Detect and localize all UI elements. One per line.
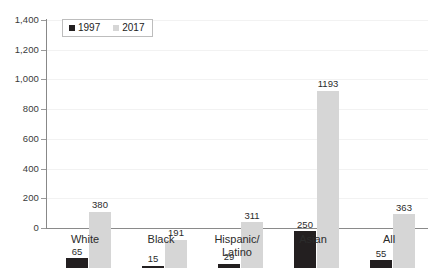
legend-label-1997: 1997 (78, 22, 100, 33)
y-tick-mark (41, 20, 46, 21)
y-tick-mark (41, 169, 46, 170)
bar-chart: 1,400 1,200 1,000 800 600 400 200 0 65 3… (0, 0, 433, 268)
y-tick-label: 600 (1, 134, 39, 144)
bar-label-white-2017: 380 (85, 199, 115, 210)
legend-swatch-icon-2017 (113, 25, 119, 31)
category-label-black: Black (123, 233, 199, 246)
y-tick-label: 200 (1, 193, 39, 203)
bar-label-all-2017: 363 (389, 202, 419, 213)
bar-white-1997[interactable] (66, 258, 88, 268)
y-tick-label: 1,400 (1, 15, 39, 25)
y-tick-label: 800 (1, 104, 39, 114)
chart-legend: 1997 2017 (62, 19, 153, 37)
bar-label-black-1997: 15 (138, 253, 168, 264)
y-tick-mark (41, 139, 46, 140)
legend-item-2017[interactable]: 2017 (113, 22, 144, 33)
legend-label-2017: 2017 (122, 22, 144, 33)
y-tick-label: 1,000 (1, 74, 39, 84)
bar-label-all-1997: 55 (366, 248, 396, 259)
y-tick-mark (41, 50, 46, 51)
y-tick-mark (41, 109, 46, 110)
gridline (47, 50, 428, 51)
bar-label-hispanic-2017: 311 (237, 210, 267, 221)
bar-label-asian-2017: 1193 (311, 78, 345, 89)
category-label-hispanic-latino: Hispanic/ Latino (199, 233, 275, 259)
y-tick-label: 1,200 (1, 45, 39, 55)
bar-hispanic-1997[interactable] (218, 264, 240, 268)
y-tick-mark (41, 198, 46, 199)
y-tick-label: 400 (1, 164, 39, 174)
category-label-all: All (351, 233, 427, 246)
y-tick-label: 0 (1, 223, 39, 233)
bar-all-1997[interactable] (370, 260, 392, 268)
bar-label-white-1997: 65 (62, 246, 92, 257)
legend-item-1997[interactable]: 1997 (69, 22, 100, 33)
category-label-asian: Asian (275, 233, 351, 246)
legend-swatch-icon-1997 (69, 25, 75, 31)
y-tick-mark (41, 228, 46, 229)
y-axis: 1,400 1,200 1,000 800 600 400 200 0 (0, 0, 39, 268)
category-label-white: White (47, 233, 123, 246)
bar-label-asian-1997: 250 (290, 219, 320, 230)
y-tick-mark (41, 79, 46, 80)
